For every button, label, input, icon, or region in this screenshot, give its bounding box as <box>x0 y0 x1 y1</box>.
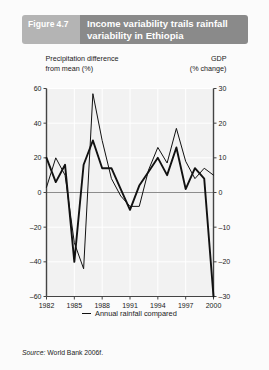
legend-label: Annual rainfall compared <box>95 309 177 318</box>
figure-title-line-1: Income variability trails rainfall <box>87 18 242 30</box>
figure-label: Figure <box>28 19 55 29</box>
left-axis-title-line-2: from mean (%) <box>46 64 94 73</box>
x-axis-tick-label: 1994 <box>150 302 166 309</box>
legend-label-line-2: with the mean 1982–90 <box>94 318 172 320</box>
x-axis-tick-label: 1982 <box>39 302 55 309</box>
right-axis-tick-label: 0 <box>219 189 223 196</box>
figure-panel: Figure 4.7 Income variability trails rai… <box>0 0 269 370</box>
source-prefix: Source: <box>22 349 45 356</box>
right-axis-tick-label: –10 <box>219 224 231 231</box>
figure-number-badge: Figure 4.7 <box>22 15 80 44</box>
right-axis-title-line-1: GDP <box>211 54 227 63</box>
figure-title-line-2: variability in Ethiopia <box>87 30 242 42</box>
x-axis-tick-label: 1988 <box>94 302 110 309</box>
figure-title: Income variability trails rainfall varia… <box>80 15 248 44</box>
line-chart: 6040200–20–40–603020100–10–20–3019821985… <box>0 50 269 320</box>
source-text: World Bank 2006f. <box>47 349 103 356</box>
right-axis-tick-label: –20 <box>219 258 231 265</box>
left-axis-tick-label: –20 <box>30 224 42 231</box>
left-axis-tick-label: 20 <box>34 154 42 161</box>
figure-number: 4.7 <box>57 19 69 29</box>
right-axis-title-line-2: (% change) <box>190 64 227 73</box>
x-axis-tick-label: 1985 <box>67 302 83 309</box>
right-axis-tick-label: 30 <box>219 85 227 92</box>
source-note: Source: World Bank 2006f. <box>22 349 103 356</box>
x-axis-tick-label: 1997 <box>178 302 194 309</box>
left-axis-tick-label: –40 <box>30 258 42 265</box>
left-axis-tick-label: 60 <box>34 85 42 92</box>
left-axis-title-line-1: Precipitation difference <box>46 54 119 63</box>
figure-header: Figure 4.7 Income variability trails rai… <box>22 15 248 44</box>
chart-area: 6040200–20–40–603020100–10–20–3019821985… <box>0 50 269 320</box>
left-axis-tick-label: –60 <box>30 293 42 300</box>
left-axis-tick-label: 0 <box>38 189 42 196</box>
x-axis-tick-label: 2000 <box>206 302 222 309</box>
right-axis-tick-label: –30 <box>219 293 231 300</box>
x-axis-tick-label: 1991 <box>122 302 138 309</box>
left-axis-tick-label: 40 <box>34 120 42 127</box>
right-axis-tick-label: 20 <box>219 120 227 127</box>
right-axis-tick-label: 10 <box>219 154 227 161</box>
